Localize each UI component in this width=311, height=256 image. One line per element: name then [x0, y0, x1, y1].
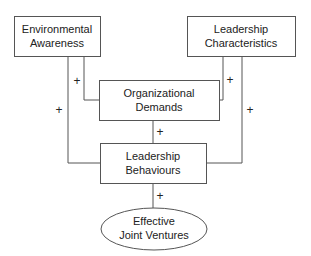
node-organizational-demands: Organizational Demands: [100, 81, 220, 121]
sign-char-to-org: +: [226, 73, 233, 87]
node-label-line1: Environmental: [22, 23, 92, 35]
node-leadership-characteristics: Leadership Characteristics: [188, 17, 296, 57]
sign-char-to-behaviours: +: [246, 103, 253, 117]
sign-env-to-org: +: [73, 74, 80, 88]
node-label-line2: Characteristics: [205, 37, 278, 49]
sign-org-to-behaviours: +: [156, 125, 163, 139]
node-label-line2: Demands: [135, 101, 183, 113]
node-leadership-behaviours: Leadership Behaviours: [101, 144, 207, 184]
node-environmental-awareness: Environmental Awareness: [15, 17, 101, 57]
node-label-line1: Leadership: [214, 23, 268, 35]
edge-char-to-org: [220, 56, 223, 100]
connectors: [68, 56, 242, 208]
edge-env-to-org: [84, 56, 99, 100]
node-effective-joint-ventures: Effective Joint Ventures: [101, 208, 207, 250]
node-label-line1: Leadership: [126, 150, 180, 162]
node-label-line1: Organizational: [124, 87, 195, 99]
sign-env-to-behaviours: +: [55, 103, 62, 117]
node-label-line1: Effective: [133, 215, 175, 227]
node-label-line2: Behaviours: [125, 164, 181, 176]
node-label-line2: Joint Ventures: [119, 229, 189, 241]
node-label-line2: Awareness: [30, 37, 85, 49]
sign-behaviours-to-jv: +: [156, 189, 163, 203]
diagram-canvas: + + + + + + Environmental Awareness Lead…: [0, 0, 311, 256]
